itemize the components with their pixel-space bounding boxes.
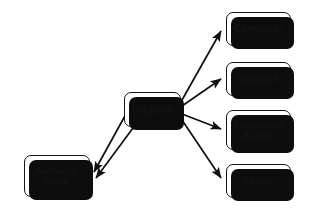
node-server-label: Server: [240, 175, 276, 187]
edge-location-to-computer: [182, 31, 221, 100]
node-peripheral-device-label: Peripheral device: [232, 119, 286, 142]
node-location-label: Location: [130, 104, 175, 116]
node-network-label: Network: [236, 73, 281, 85]
edge-location-to-network: [182, 79, 221, 106]
node-network[interactable]: Network: [226, 62, 291, 96]
edge-location-to-peripheral: [182, 114, 221, 129]
edge-location-to-server: [182, 120, 221, 178]
node-computer-label: Computer: [232, 23, 284, 35]
node-network-node-label: Network node: [35, 165, 80, 188]
node-network-node[interactable]: Network node: [24, 155, 90, 197]
node-location[interactable]: Location: [124, 92, 181, 127]
node-peripheral-device[interactable]: Peripheral device: [226, 110, 291, 150]
diagram-canvas: Location Computer Network Peripheral dev…: [0, 0, 309, 216]
node-computer[interactable]: Computer: [226, 12, 291, 46]
node-server[interactable]: Server: [226, 164, 291, 198]
